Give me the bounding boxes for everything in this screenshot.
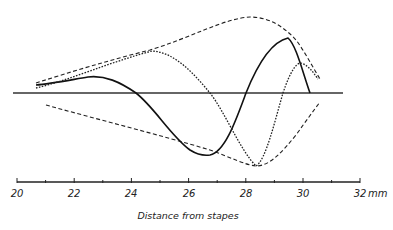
x-tick-30: 30: [297, 188, 310, 199]
x-tick-20: 20: [11, 188, 24, 199]
x-tick-28: 28: [240, 188, 253, 199]
x-tick-24: 24: [125, 188, 138, 199]
x-tick-26: 26: [183, 188, 196, 199]
upper-envelope-curve: [36, 17, 320, 83]
x-tick-32: 32: [354, 188, 367, 199]
x-axis-title: Distance from stapes: [137, 210, 238, 221]
x-tick-22: 22: [68, 188, 81, 199]
dotted-wave-curve: [36, 51, 318, 166]
solid-wave-curve: [36, 38, 310, 155]
lower-envelope-curve: [46, 102, 320, 166]
x-axis-unit: mm: [368, 188, 388, 199]
cochlear-wave-chart: 20 22 24 26 28 30 32 mm Distance from st…: [0, 0, 393, 230]
